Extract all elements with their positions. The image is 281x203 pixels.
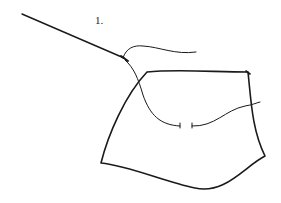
thread-through-fabric (125, 60, 180, 126)
fabric-piece (101, 71, 265, 189)
sewing-diagram (0, 0, 281, 203)
needle (22, 14, 124, 58)
thread-exit (192, 102, 260, 126)
needle-tip (121, 56, 128, 61)
thread-tail (123, 46, 196, 58)
